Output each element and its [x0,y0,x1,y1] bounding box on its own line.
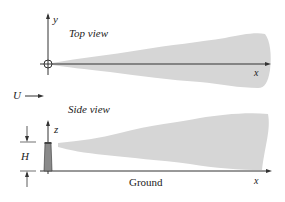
top-view-plume [52,33,271,88]
y-axis-arrowhead [46,13,50,19]
height-arrowhead-bottom [25,171,29,177]
side-view-plume [58,113,269,170]
side-x-axis-arrowhead [266,169,272,173]
side-view-title: Side view [68,104,110,115]
dispersion-diagram [0,0,285,202]
ground-label: Ground [129,177,163,188]
side-x-axis-label: x [254,176,258,186]
z-axis-arrowhead [46,120,50,126]
height-label: H [21,151,29,162]
top-x-axis-label: x [254,68,258,78]
z-axis-label: z [54,124,58,135]
wind-label: U [13,90,21,101]
smokestack [44,143,52,171]
y-axis-label: y [53,14,58,25]
height-arrowhead-top [25,136,29,142]
smokestack-top [45,142,52,144]
wind-arrowhead [38,94,44,98]
top-view-title: Top view [69,28,108,39]
